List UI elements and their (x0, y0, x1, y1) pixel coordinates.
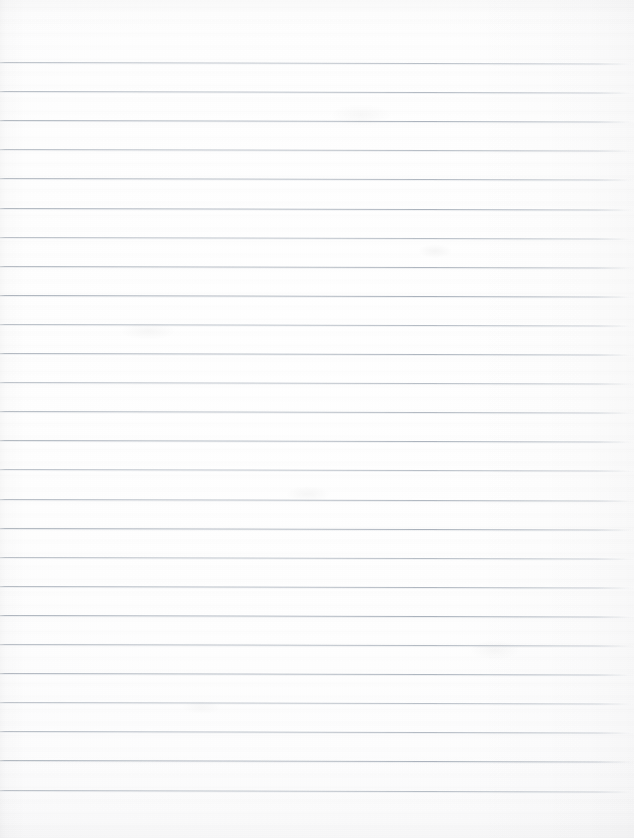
ruling-line (0, 615, 634, 617)
ruling-line (0, 557, 634, 559)
ruling-line (0, 528, 634, 530)
ruling-line (0, 149, 634, 151)
ruling-line (0, 673, 634, 675)
ruling-line (0, 295, 634, 297)
ruling-line (0, 208, 634, 210)
ruling-line (0, 440, 634, 442)
ruling-line (0, 411, 634, 413)
ruling-line (0, 469, 634, 471)
ruling-lines-layer (0, 0, 634, 838)
ruling-line (0, 237, 634, 239)
ruling-line (0, 382, 634, 384)
ruling-line (0, 790, 634, 792)
ruling-line (0, 120, 634, 122)
ruling-line (0, 586, 634, 588)
ruling-line (0, 353, 634, 355)
ruling-line (0, 731, 634, 733)
ruling-line (0, 178, 634, 180)
ruling-line (0, 702, 634, 704)
ruling-line (0, 324, 634, 326)
scanned-page (0, 0, 634, 838)
ruling-line (0, 760, 634, 762)
ruling-line (0, 266, 634, 268)
ruling-line (0, 499, 634, 501)
ruling-line (0, 91, 634, 93)
ruling-line (0, 62, 634, 64)
ruling-line (0, 644, 634, 646)
